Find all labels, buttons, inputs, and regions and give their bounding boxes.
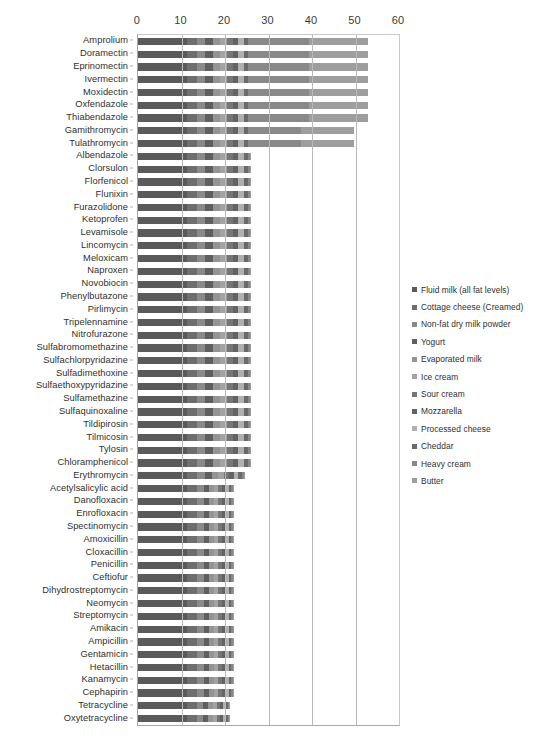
stacked-bar[interactable] bbox=[138, 357, 252, 364]
bar-segment bbox=[205, 447, 213, 454]
stacked-bar[interactable] bbox=[138, 613, 234, 620]
stacked-bar[interactable] bbox=[138, 114, 369, 121]
bar-segment bbox=[197, 689, 204, 696]
legend-swatch-icon bbox=[412, 339, 417, 344]
legend-item[interactable]: Sour cream bbox=[412, 385, 544, 402]
legend-item[interactable]: Yogurt bbox=[412, 333, 544, 350]
stacked-bar[interactable] bbox=[138, 319, 252, 326]
legend-label: Sour cream bbox=[421, 389, 465, 399]
stacked-bar[interactable] bbox=[138, 140, 354, 147]
bar-segment bbox=[250, 255, 251, 262]
y-axis-label-sulfaethoxypyridazine: Sulfaethoxypyridazine bbox=[36, 381, 128, 390]
bar-segment bbox=[197, 140, 206, 147]
stacked-bar[interactable] bbox=[138, 587, 234, 594]
stacked-bar[interactable] bbox=[138, 677, 234, 684]
stacked-bar[interactable] bbox=[138, 485, 234, 492]
stacked-bar[interactable] bbox=[138, 293, 252, 300]
stacked-bar[interactable] bbox=[138, 549, 234, 556]
y-axis-label-tulathromycin: Tulathromycin bbox=[69, 138, 128, 147]
y-axis-label-tetracycline: Tetracycline bbox=[78, 700, 128, 709]
stacked-bar[interactable] bbox=[138, 242, 252, 249]
stacked-bar[interactable] bbox=[138, 651, 234, 658]
stacked-bar[interactable] bbox=[138, 153, 252, 160]
legend-item[interactable]: Non-fat dry milk powder bbox=[412, 316, 544, 333]
legend-item[interactable]: Cheddar bbox=[412, 438, 544, 455]
y-tick bbox=[130, 104, 133, 105]
stacked-bar[interactable] bbox=[138, 523, 234, 530]
stacked-bar[interactable] bbox=[138, 702, 230, 709]
stacked-bar[interactable] bbox=[138, 344, 252, 351]
stacked-bar[interactable] bbox=[138, 664, 234, 671]
y-axis-label-phenylbutazone: Phenylbutazone bbox=[61, 291, 128, 300]
bar-segment bbox=[138, 114, 187, 121]
bar-segment bbox=[205, 472, 212, 479]
legend-item[interactable]: Butter bbox=[412, 472, 544, 489]
stacked-bar[interactable] bbox=[138, 268, 252, 275]
stacked-bar[interactable] bbox=[138, 498, 234, 505]
y-axis-label-kanamycin: Kanamycin bbox=[82, 675, 128, 684]
bar-segment bbox=[138, 408, 187, 415]
legend-item[interactable]: Heavy cream bbox=[412, 455, 544, 472]
bar-segment bbox=[138, 600, 187, 607]
stacked-bar[interactable] bbox=[138, 204, 252, 211]
legend-item[interactable]: Processed cheese bbox=[412, 420, 544, 437]
legend-item[interactable]: Mozzarella bbox=[412, 403, 544, 420]
legend-label: Heavy cream bbox=[421, 459, 471, 469]
legend-item[interactable]: Fluid milk (all fat levels) bbox=[412, 281, 544, 298]
stacked-bar[interactable] bbox=[138, 166, 252, 173]
y-tick bbox=[130, 232, 133, 233]
bar-segment bbox=[213, 459, 220, 466]
stacked-bar[interactable] bbox=[138, 689, 234, 696]
bar-segment bbox=[250, 370, 251, 377]
legend-item[interactable]: Cottage cheese (Creamed) bbox=[412, 298, 544, 315]
y-axis-label-erythromycin: Erythromycin bbox=[73, 470, 128, 479]
stacked-bar[interactable] bbox=[138, 102, 369, 109]
stacked-bar[interactable] bbox=[138, 63, 369, 70]
bar-segment bbox=[250, 459, 251, 466]
bar-segment bbox=[197, 408, 206, 415]
stacked-bar[interactable] bbox=[138, 459, 252, 466]
stacked-bar[interactable] bbox=[138, 396, 252, 403]
stacked-bar[interactable] bbox=[138, 600, 234, 607]
stacked-bar[interactable] bbox=[138, 715, 230, 722]
stacked-bar[interactable] bbox=[138, 574, 234, 581]
stacked-bar[interactable] bbox=[138, 178, 252, 185]
stacked-bar[interactable] bbox=[138, 511, 234, 518]
bar-segment bbox=[138, 562, 187, 569]
stacked-bar[interactable] bbox=[138, 408, 252, 415]
stacked-bar[interactable] bbox=[138, 255, 252, 262]
bar-segment bbox=[213, 421, 220, 428]
y-tick bbox=[130, 704, 133, 705]
stacked-bar[interactable] bbox=[138, 638, 234, 645]
bar-segment bbox=[187, 600, 197, 607]
stacked-bar[interactable] bbox=[138, 127, 354, 134]
bar-segment bbox=[250, 408, 251, 415]
bar-segment bbox=[197, 511, 204, 518]
stacked-bar[interactable] bbox=[138, 217, 252, 224]
legend-item[interactable]: Ice cream bbox=[412, 368, 544, 385]
stacked-bar[interactable] bbox=[138, 383, 252, 390]
bar-segment bbox=[213, 268, 220, 275]
stacked-bar[interactable] bbox=[138, 191, 252, 198]
stacked-bar[interactable] bbox=[138, 370, 252, 377]
stacked-bar[interactable] bbox=[138, 51, 369, 58]
y-tick bbox=[130, 321, 133, 322]
stacked-bar[interactable] bbox=[138, 332, 252, 339]
bar-segment bbox=[213, 383, 220, 390]
legend-swatch-icon bbox=[412, 444, 417, 449]
legend-item[interactable]: Evaporated milk bbox=[412, 351, 544, 368]
stacked-bar[interactable] bbox=[138, 447, 252, 454]
stacked-bar[interactable] bbox=[138, 626, 234, 633]
stacked-bar[interactable] bbox=[138, 434, 252, 441]
stacked-bar[interactable] bbox=[138, 306, 252, 313]
stacked-bar[interactable] bbox=[138, 89, 369, 96]
stacked-bar[interactable] bbox=[138, 281, 252, 288]
stacked-bar[interactable] bbox=[138, 38, 369, 45]
stacked-bar[interactable] bbox=[138, 229, 252, 236]
stacked-bar[interactable] bbox=[138, 562, 234, 569]
stacked-bar[interactable] bbox=[138, 421, 252, 428]
y-tick bbox=[130, 462, 133, 463]
stacked-bar[interactable] bbox=[138, 536, 234, 543]
stacked-bar[interactable] bbox=[138, 76, 369, 83]
stacked-bar[interactable] bbox=[138, 472, 245, 479]
